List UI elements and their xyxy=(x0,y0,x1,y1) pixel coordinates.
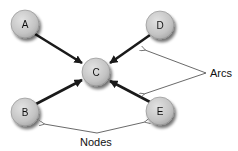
node-label: C xyxy=(92,67,99,78)
nodes-callout-lines xyxy=(44,122,145,133)
node-label: D xyxy=(156,20,163,31)
node-b: B xyxy=(11,98,39,126)
arc-d-to-c xyxy=(110,35,150,63)
arc-a-to-c xyxy=(35,34,82,63)
arcs-label: Arcs xyxy=(210,67,233,79)
node-e: E xyxy=(146,97,174,125)
node-label: E xyxy=(157,106,164,117)
node-d: D xyxy=(146,11,174,39)
arc-b-to-c xyxy=(36,80,82,104)
arcs-callout-lines xyxy=(144,50,206,94)
node-label: A xyxy=(22,19,29,30)
node-label: B xyxy=(22,107,29,118)
nodes-label: Nodes xyxy=(80,136,112,148)
arc-e-to-c xyxy=(110,81,150,102)
nodes-callout xyxy=(44,122,145,133)
arcs-callout xyxy=(144,50,206,94)
node-a: A xyxy=(11,10,39,38)
graph-diagram: A B C D E Arcs Nodes xyxy=(0,0,238,151)
node-c: C xyxy=(82,58,110,86)
